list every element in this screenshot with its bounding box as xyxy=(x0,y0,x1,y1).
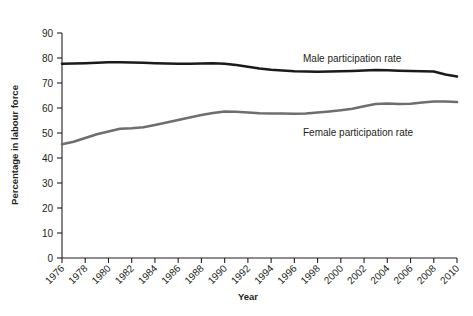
x-axis-title: Year xyxy=(238,291,258,302)
x-tick-label: 1980 xyxy=(89,262,113,286)
x-tick-label: 1988 xyxy=(182,262,206,286)
y-tick-label: 20 xyxy=(42,203,54,214)
chart-figure: 0102030405060708090 19761978198019821984… xyxy=(0,0,473,316)
line-chart: 0102030405060708090 19761978198019821984… xyxy=(0,0,473,316)
x-axis-ticks: 1976197819801982198419861988199019921994… xyxy=(43,258,462,286)
female-series-label: Female participation rate xyxy=(303,127,413,138)
x-tick-label: 1990 xyxy=(206,262,230,286)
y-tick-label: 50 xyxy=(42,128,54,139)
x-tick-label: 2004 xyxy=(368,262,392,286)
x-tick-label: 1976 xyxy=(43,262,67,286)
y-tick-label: 0 xyxy=(47,253,53,264)
y-tick-label: 80 xyxy=(42,53,54,64)
y-tick-label: 90 xyxy=(42,28,54,39)
x-tick-label: 2000 xyxy=(322,262,346,286)
x-tick-label: 2002 xyxy=(345,262,369,286)
x-tick-label: 1996 xyxy=(275,262,299,286)
y-tick-label: 60 xyxy=(42,103,54,114)
x-tick-label: 1984 xyxy=(136,262,160,286)
series-line-male xyxy=(62,62,457,76)
x-tick-label: 1982 xyxy=(113,262,137,286)
x-tick-label: 1986 xyxy=(159,262,183,286)
x-tick-label: 1998 xyxy=(298,262,322,286)
x-tick-label: 2006 xyxy=(391,262,415,286)
y-axis-ticks: 0102030405060708090 xyxy=(42,28,62,264)
y-tick-label: 40 xyxy=(42,153,54,164)
y-axis-title: Percentage in labour force xyxy=(9,85,20,205)
x-tick-label: 2008 xyxy=(415,262,439,286)
x-tick-label: 2010 xyxy=(438,262,462,286)
y-tick-label: 70 xyxy=(42,78,54,89)
x-tick-label: 1994 xyxy=(252,262,276,286)
y-tick-label: 10 xyxy=(42,228,54,239)
y-tick-label: 30 xyxy=(42,178,54,189)
x-tick-label: 1978 xyxy=(66,262,90,286)
male-series-label: Male participation rate xyxy=(303,53,402,64)
x-tick-label: 1992 xyxy=(229,262,253,286)
